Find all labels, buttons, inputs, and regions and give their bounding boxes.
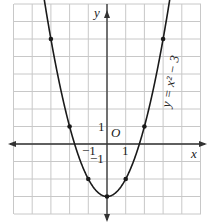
graph-figure: y x O 1 −1 −1 1 y = x² − 3 [0,0,213,224]
axes [8,0,207,222]
origin-label: O [111,125,121,140]
parabola-plot: y x O 1 −1 −1 1 y = x² − 3 [0,0,213,224]
x-tick-1: 1 [122,143,129,158]
y-tick-1: 1 [98,119,105,134]
x-axis-label: x [190,146,197,161]
curve-equation-label: y = x² − 3 [158,54,182,111]
y-axis-label: y [92,5,100,20]
x-tick-neg1: −1 [82,143,96,158]
